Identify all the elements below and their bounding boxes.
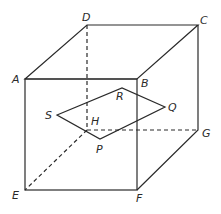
label-S: S <box>45 109 52 122</box>
cube-diagram: D C A B R Q S H P G E F <box>0 0 221 214</box>
label-A: A <box>11 73 20 86</box>
label-F: F <box>136 192 143 205</box>
label-C: C <box>200 14 208 27</box>
label-Q: Q <box>168 101 177 114</box>
label-P: P <box>96 143 103 156</box>
label-E: E <box>12 189 19 202</box>
top-face <box>25 25 198 79</box>
label-R: R <box>116 90 124 103</box>
section-quadrilateral <box>57 88 165 139</box>
label-B: B <box>141 77 149 90</box>
label-D: D <box>82 11 90 24</box>
edge-HE <box>25 130 87 190</box>
label-H: H <box>91 115 99 128</box>
label-G: G <box>202 127 211 140</box>
